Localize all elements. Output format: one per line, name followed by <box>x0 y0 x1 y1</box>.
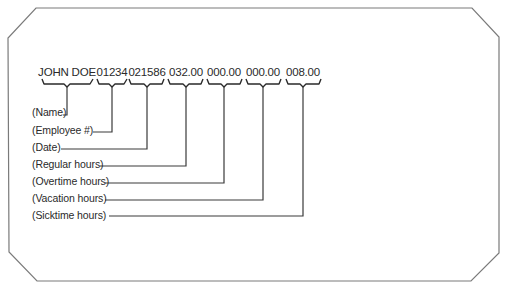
brace-employee <box>97 79 127 87</box>
card-frame <box>0 0 510 288</box>
leader-date <box>61 87 147 149</box>
label-overtime: (Overtime hours) <box>32 175 109 188</box>
brace-sicktime <box>286 79 321 87</box>
field-value-vacation: 000.00 <box>246 65 280 79</box>
field-value-regular: 032.00 <box>169 65 203 79</box>
card-border <box>8 8 499 281</box>
label-date: (Date) <box>32 141 61 154</box>
leader-regular <box>100 87 186 166</box>
field-value-sicktime: 008.00 <box>286 65 320 79</box>
field-value-employee: 01234 <box>97 65 128 79</box>
field-value-name: JOHN DOE <box>38 65 96 79</box>
label-regular: (Regular hours) <box>32 158 103 171</box>
brace-date <box>129 79 164 87</box>
employee-record-diagram: JOHN DOE 01234 021586 032.00 000.00 000.… <box>0 0 510 288</box>
leader-employee <box>93 87 112 132</box>
brace-overtime <box>207 79 242 87</box>
label-name: (Name) <box>32 106 66 119</box>
label-employee: (Employee #) <box>32 124 93 137</box>
leader-sicktime <box>109 87 303 216</box>
leader-overtime <box>105 87 224 183</box>
field-value-date: 021586 <box>128 65 165 79</box>
field-value-overtime: 000.00 <box>207 65 241 79</box>
brace-vacation <box>246 79 281 87</box>
label-sicktime: (Sicktime hours) <box>32 209 106 222</box>
brace-regular <box>168 79 203 87</box>
brace-name <box>42 79 93 87</box>
label-vacation: (Vacation hours) <box>32 192 107 205</box>
